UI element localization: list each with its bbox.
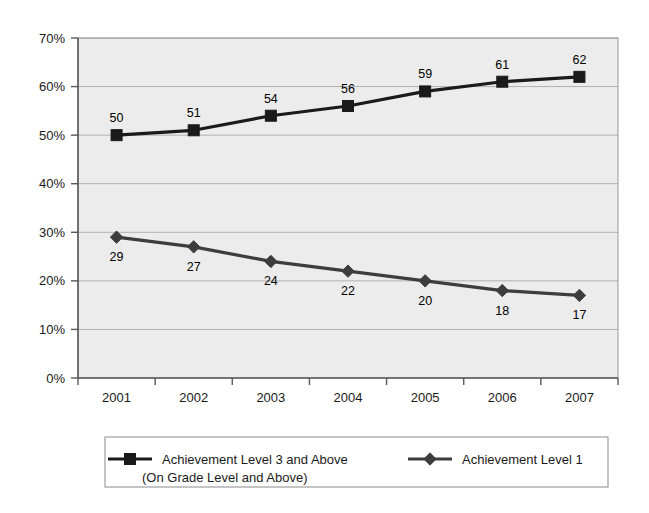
data-point-label: 61	[495, 58, 509, 72]
x-axis-tick-label: 2006	[488, 390, 517, 405]
data-point-marker-square	[574, 71, 585, 82]
data-point-marker-square	[343, 101, 354, 112]
x-axis-tick-label: 2002	[179, 390, 208, 405]
y-axis-tick-label: 10%	[39, 322, 65, 337]
x-axis-tick-label: 2003	[256, 390, 285, 405]
legend-sublabel: (On Grade Level and Above)	[142, 470, 308, 485]
data-point-marker-square	[265, 110, 276, 121]
y-axis-tick-label: 60%	[39, 79, 65, 94]
data-point-label: 18	[495, 304, 509, 318]
x-axis-tick-label: 2001	[102, 390, 131, 405]
data-point-marker-square	[420, 86, 431, 97]
x-axis-tick-label: 2007	[565, 390, 594, 405]
data-point-marker-square	[111, 130, 122, 141]
chart-canvas: 0%10%20%30%40%50%60%70% 2001200220032004…	[0, 0, 649, 513]
y-axis-tick-label: 20%	[39, 273, 65, 288]
data-point-label: 50	[110, 111, 124, 125]
data-point-label: 22	[341, 284, 355, 298]
data-point-label: 27	[187, 260, 201, 274]
y-axis-tick-label: 30%	[39, 225, 65, 240]
y-axis-tick-label: 0%	[46, 371, 65, 386]
data-point-marker-square	[125, 454, 136, 465]
data-point-label: 51	[187, 106, 201, 120]
y-axis-tick-label: 40%	[39, 176, 65, 191]
line-chart: 0%10%20%30%40%50%60%70% 2001200220032004…	[0, 0, 649, 513]
legend-label: Achievement Level 3 and Above	[162, 452, 348, 467]
data-point-marker-square	[188, 125, 199, 136]
data-point-label: 20	[418, 294, 432, 308]
y-axis-tick-label: 50%	[39, 128, 65, 143]
data-point-label: 56	[341, 82, 355, 96]
legend-label: Achievement Level 1	[462, 452, 583, 467]
data-point-marker-square	[497, 76, 508, 87]
x-axis-tick-label: 2004	[334, 390, 363, 405]
chart-legend: Achievement Level 3 and Above(On Grade L…	[105, 437, 608, 487]
data-point-label: 24	[264, 274, 278, 288]
data-point-label: 29	[110, 250, 124, 264]
data-point-label: 17	[572, 308, 586, 322]
data-point-label: 59	[418, 67, 432, 81]
x-axis-tick-label: 2005	[411, 390, 440, 405]
y-axis: 0%10%20%30%40%50%60%70%	[39, 31, 78, 386]
data-point-label: 54	[264, 92, 278, 106]
data-point-label: 62	[572, 53, 586, 67]
x-axis: 2001200220032004200520062007	[78, 378, 618, 405]
y-axis-tick-label: 70%	[39, 31, 65, 46]
